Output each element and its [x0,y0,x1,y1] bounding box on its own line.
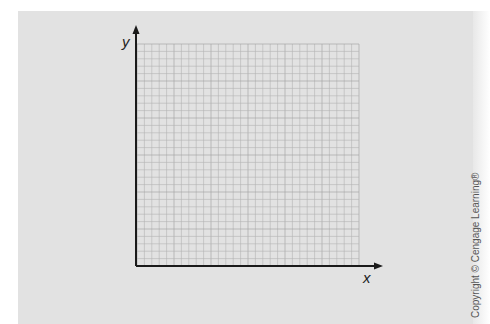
coordinate-grid [0,0,490,324]
y-axis-arrow-icon [133,25,140,34]
x-axis-label: x [363,269,371,286]
x-axis-arrow-icon [374,263,383,270]
y-axis-label: y [122,33,130,50]
copyright-notice: Copyright © Cengage Learning® [470,173,481,318]
